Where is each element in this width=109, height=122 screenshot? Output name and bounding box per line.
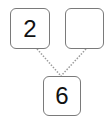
- connector-left: [37, 49, 61, 76]
- part-box-right[interactable]: [65, 8, 104, 49]
- part-left-value: 2: [23, 15, 36, 43]
- whole-value: 6: [55, 82, 68, 110]
- whole-box: 6: [43, 76, 81, 116]
- part-box-left: 2: [10, 8, 50, 49]
- connector-right: [61, 49, 86, 76]
